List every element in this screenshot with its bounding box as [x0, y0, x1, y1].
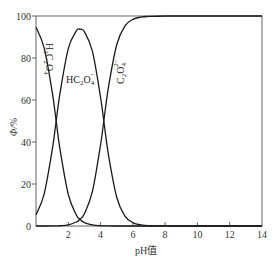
y-tick-100: 100 [16, 11, 31, 22]
curve-h2c2o4 [36, 27, 262, 226]
y-tick-20: 20 [21, 179, 31, 190]
y-axis: 100 80 60 40 20 0 Φ/% [8, 11, 36, 232]
curve-c2o4 [36, 16, 262, 226]
x-axis-title: pH值 [135, 244, 157, 256]
y-tick-0: 0 [26, 221, 31, 232]
x-tick-10: 10 [192, 229, 202, 240]
y-tick-60: 60 [21, 95, 31, 106]
x-axis: 2 4 6 8 10 12 14 pH值 [66, 222, 267, 256]
curves [36, 16, 262, 226]
x-tick-8: 8 [163, 229, 168, 240]
speciation-chart: 100 80 60 40 20 0 Φ/% 2 4 6 8 10 12 14 p… [0, 0, 276, 264]
curve-hc2o4 [36, 29, 262, 226]
y-axis-title: Φ/% [8, 118, 19, 137]
x-tick-12: 12 [225, 229, 235, 240]
x-tick-6: 6 [130, 229, 135, 240]
label-c2o4: C2O42− [112, 60, 128, 84]
plot-frame [36, 16, 262, 226]
x-tick-14: 14 [257, 229, 267, 240]
x-tick-2: 2 [66, 229, 71, 240]
x-tick-4: 4 [98, 229, 103, 240]
y-tick-40: 40 [21, 137, 31, 148]
y-tick-80: 80 [21, 53, 31, 64]
label-hc2o4: HC2O4− [66, 71, 95, 87]
